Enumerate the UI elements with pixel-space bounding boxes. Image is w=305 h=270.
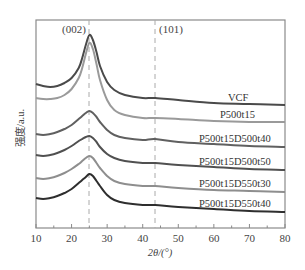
x-tick-label-20: 20 (66, 232, 78, 244)
x-tick-label-80: 80 (280, 232, 292, 244)
curve-label-p500t15d500t50: P500t15D500t50 (199, 156, 271, 167)
xrd-chart: (002) (101) VCF P500t15 P500t15D500t40 P… (0, 0, 305, 270)
peak-label-101: (101) (159, 23, 183, 36)
curve-label-vcf: VCF (228, 92, 249, 103)
curve-label-p500t15d500t40: P500t15D500t40 (199, 133, 271, 144)
x-tick-label-10: 10 (31, 232, 43, 244)
x-tick-label-60: 60 (208, 232, 220, 244)
x-axis-ticks (36, 224, 285, 228)
x-tick-label-50: 50 (173, 232, 185, 244)
y-axis-label: 强度/a.u. (14, 109, 26, 147)
x-axis-label: 2θ/(°) (148, 247, 173, 259)
curve-label-p500t15d550t30: P500t15D550t30 (199, 178, 271, 189)
x-tick-label-70: 70 (244, 232, 256, 244)
x-tick-label-30: 30 (102, 232, 114, 244)
x-tick-label-40: 40 (137, 232, 149, 244)
peak-label-002: (002) (62, 23, 86, 36)
curve-label-p500t15: P500t15 (220, 109, 255, 120)
curve-label-p500t15d550t40: P500t15D550t40 (199, 198, 271, 209)
